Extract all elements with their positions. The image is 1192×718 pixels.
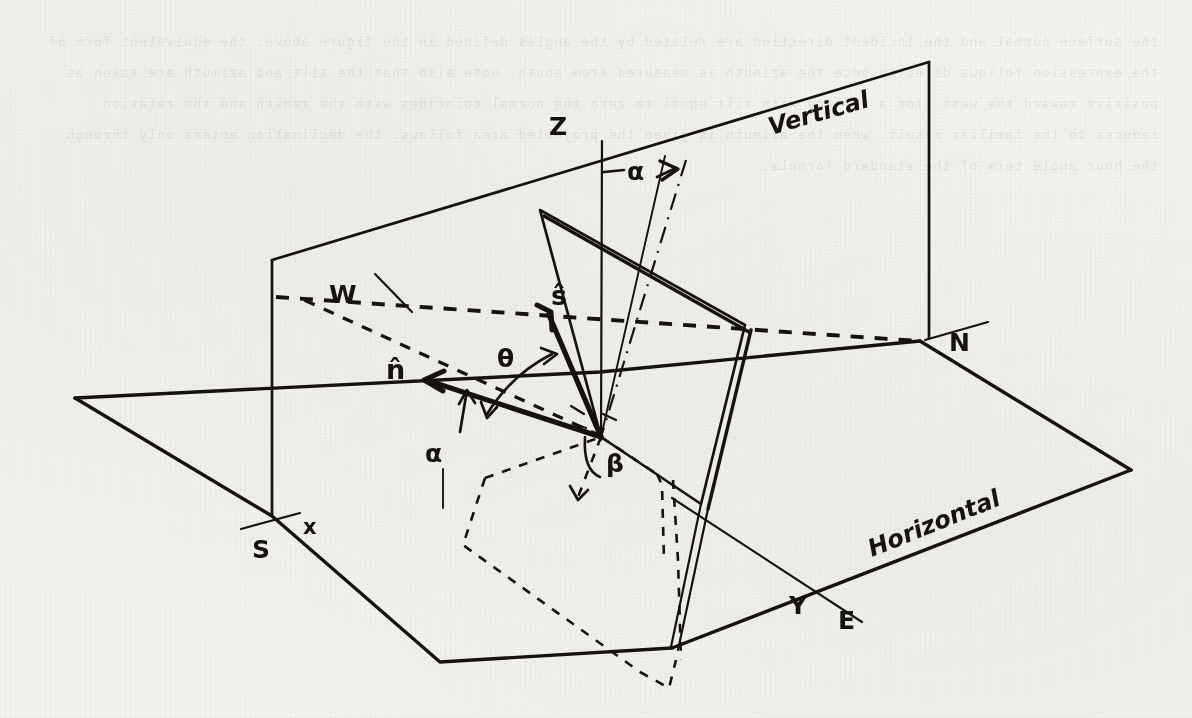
tilted-axis-line [601, 156, 665, 437]
west-axis-dashed-line [300, 298, 601, 436]
vertical-plane-top-edge [272, 62, 929, 260]
west-axis-label: W [329, 280, 357, 309]
sun-direction-vector: ŝ [537, 280, 601, 437]
horizontal-plane-left-edges [75, 398, 672, 662]
south-axis-label: S [252, 535, 270, 564]
west-axis-tick [375, 274, 412, 312]
theta-label: θ [497, 344, 514, 373]
diagram-canvas: Z N S x Y E W [0, 0, 1192, 718]
z-axis-label: Z [549, 112, 567, 141]
vertical-plane-dashed-base [276, 297, 918, 341]
projection-edge-right [657, 474, 664, 560]
east-axis: Y E [672, 498, 862, 635]
north-axis-label: N [949, 328, 970, 357]
alpha-angle-horizontal-label: α [425, 439, 442, 468]
dash-dot-construction-line [601, 160, 686, 437]
solar-azimuth-beta: β [585, 437, 624, 478]
s-hat-shaft [549, 315, 601, 437]
horizontal-plane-label: Horizontal [864, 484, 1005, 563]
s-hat-arrowhead [537, 305, 552, 330]
plane-labels: Vertical Horizontal [765, 85, 1005, 562]
tilted-plate-edge-below-plane-a [671, 504, 701, 647]
alpha-angle-vertical-label: α [627, 157, 644, 186]
projection-edge-left-bottom [463, 478, 640, 672]
east-axis-line [672, 498, 862, 622]
n-hat-label: n̂ [386, 354, 405, 385]
projection-edge-bottom-corner [640, 660, 676, 688]
vertical-plane-label: Vertical [765, 85, 873, 141]
tilted-plate-thickness-right [708, 330, 751, 509]
tilted-plate-edge-below-plane-b [678, 509, 708, 650]
horizontal-plane-bottom-edge [672, 470, 1131, 648]
figure-page: the surface normal and the incident dire… [0, 0, 1192, 718]
normal-construction-line [601, 160, 686, 437]
tilted-axis [601, 156, 665, 437]
beta-label: β [606, 449, 624, 478]
x-axis-label: x [303, 515, 317, 539]
alpha-angle-horizontal: α [425, 390, 475, 508]
vertical-plane-hidden-edge [276, 297, 918, 341]
east-axis-label: E [838, 606, 855, 635]
s-hat-label: ŝ [551, 280, 567, 311]
origin-tick-a [571, 406, 584, 414]
alpha-angle-vertical: α [604, 157, 678, 186]
incidence-angle-theta: θ [481, 344, 557, 418]
y-axis-label: Y [788, 591, 808, 620]
horizontal-plane-right-edge [920, 341, 1131, 470]
z-axis-line [601, 141, 602, 440]
alpha-top-leader [604, 170, 624, 172]
